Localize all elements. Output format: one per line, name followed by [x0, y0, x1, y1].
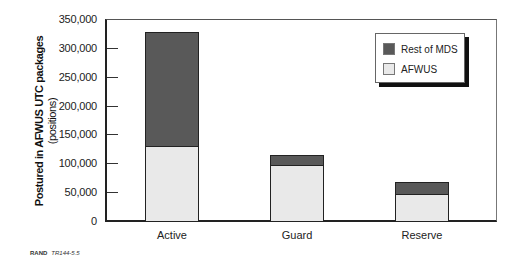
legend-swatch-light [383, 63, 395, 75]
legend: Rest of MDS AFWUS [375, 33, 465, 83]
y-tick-mark [107, 106, 118, 107]
caption-id: TR144-5.5 [51, 250, 79, 256]
bar-segment-rest-of-mds-active [145, 32, 199, 147]
legend-item-afwus: AFWUS [383, 63, 437, 75]
x-tick-label: Reserve [382, 229, 462, 241]
y-tick-label: 200,000 [17, 100, 97, 112]
y-tick-label: 0 [17, 215, 97, 227]
bar-segment-rest-of-mds-reserve [395, 182, 449, 195]
legend-swatch-dark [383, 43, 395, 55]
x-tick-label: Active [132, 229, 212, 241]
legend-label: Rest of MDS [401, 44, 458, 55]
caption-org: RAND [30, 250, 47, 256]
y-tick-mark [107, 48, 118, 49]
y-tick-mark [107, 77, 118, 78]
bar-segment-afwus-reserve [395, 194, 449, 222]
y-tick-label: 100,000 [17, 157, 97, 169]
legend-item-rest-of-mds: Rest of MDS [383, 43, 458, 55]
x-tick-label: Guard [257, 229, 337, 241]
bar-segment-afwus-active [145, 146, 199, 222]
y-tick-label: 300,000 [17, 42, 97, 54]
figure-caption: RANDTR144-5.5 [30, 250, 80, 256]
y-tick-mark [107, 192, 118, 193]
y-tick-label: 250,000 [17, 71, 97, 83]
y-tick-label: 150,000 [17, 128, 97, 140]
y-tick-mark [107, 163, 118, 164]
bar-segment-afwus-guard [270, 165, 324, 222]
y-tick-label: 350,000 [17, 13, 97, 25]
y-tick-mark [107, 134, 118, 135]
bar-segment-rest-of-mds-guard [270, 155, 324, 166]
y-tick-label: 50,000 [17, 186, 97, 198]
legend-label: AFWUS [401, 64, 437, 75]
